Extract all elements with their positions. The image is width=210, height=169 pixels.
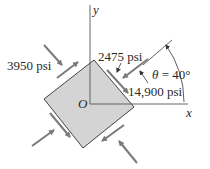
stress-label-3950: 3950 psi xyxy=(7,59,51,72)
stress-element-diagram: y x O 3950 psi 2475 psi 14,900 psi θ = 4… xyxy=(0,0,210,169)
arrow-normal-lower-left xyxy=(32,130,54,146)
arrow-normal-lower-right xyxy=(119,141,137,163)
origin-label: O xyxy=(78,97,87,110)
leader-2475 xyxy=(117,63,121,72)
stress-label-14900: 14,900 psi xyxy=(128,85,182,98)
angle-equals: = xyxy=(162,67,169,82)
theta-symbol: θ xyxy=(152,67,158,82)
stress-label-2475: 2475 psi xyxy=(98,50,142,63)
x-axis-label: x xyxy=(186,106,192,119)
theta-reference-line xyxy=(143,40,172,65)
angle-value: 40° xyxy=(172,67,190,82)
leader-14900 xyxy=(140,71,148,83)
angle-label: θ = 40° xyxy=(152,68,190,81)
y-axis-label: y xyxy=(93,3,99,16)
